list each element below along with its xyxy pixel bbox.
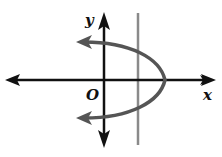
graph-canvas: y O x: [0, 0, 222, 157]
origin-label: O: [86, 86, 99, 104]
x-axis-label: x: [202, 86, 213, 104]
y-axis-label: y: [84, 11, 95, 29]
